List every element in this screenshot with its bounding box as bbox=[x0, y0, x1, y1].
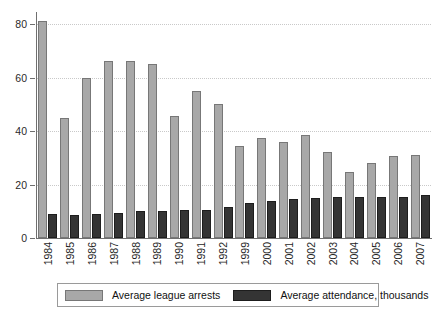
y-tick-label: 0 bbox=[21, 233, 27, 244]
y-tick-label: 20 bbox=[15, 179, 27, 190]
y-tick-label: 80 bbox=[15, 19, 27, 30]
bar-group bbox=[411, 0, 430, 238]
y-axis: 020406080 bbox=[0, 0, 36, 270]
bar-group bbox=[235, 0, 254, 238]
bar-attendance bbox=[136, 211, 145, 238]
x-tick-label: 1985 bbox=[65, 242, 76, 265]
bar-group bbox=[104, 0, 123, 238]
x-tick-label: 2000 bbox=[262, 242, 273, 265]
bar-attendance bbox=[114, 213, 123, 238]
bar-attendance bbox=[70, 215, 79, 238]
x-tick-label: 1988 bbox=[131, 242, 142, 265]
x-tick-label: 2007 bbox=[415, 242, 426, 265]
y-tick-label: 40 bbox=[15, 126, 27, 137]
bar-attendance bbox=[180, 210, 189, 238]
bar-group bbox=[257, 0, 276, 238]
bar-group bbox=[38, 0, 57, 238]
bar-arrests bbox=[60, 118, 69, 238]
y-tick-label: 60 bbox=[15, 72, 27, 83]
bar-attendance bbox=[224, 207, 233, 238]
x-tick-label: 1986 bbox=[87, 242, 98, 265]
x-axis-labels: 1984198519861987198819891990199119921999… bbox=[37, 240, 431, 270]
bar-arrests bbox=[214, 104, 223, 238]
legend-label-arrests: Average league arrests bbox=[112, 290, 220, 301]
y-tick-mark bbox=[30, 185, 35, 186]
bar-attendance bbox=[92, 214, 101, 238]
bar-group bbox=[82, 0, 101, 238]
y-tick-mark bbox=[30, 78, 35, 79]
bar-arrests bbox=[345, 172, 354, 238]
light-gray-swatch-icon bbox=[65, 290, 103, 301]
bar-attendance bbox=[202, 210, 211, 238]
x-tick-label: 1999 bbox=[240, 242, 251, 265]
legend-item-attendance: Average attendance, thousands bbox=[226, 284, 434, 306]
bar-attendance bbox=[289, 199, 298, 238]
x-tick-label: 2006 bbox=[393, 242, 404, 265]
bar-attendance bbox=[377, 197, 386, 238]
plot-area: 020406080 198419851986198719881989199019… bbox=[0, 0, 438, 270]
x-tick-label: 1992 bbox=[218, 242, 229, 265]
bar-arrests bbox=[235, 146, 244, 238]
bar-arrests bbox=[279, 142, 288, 238]
bar-group bbox=[148, 0, 167, 238]
bar-group bbox=[170, 0, 189, 238]
bar-arrests bbox=[389, 156, 398, 238]
x-tick-label: 1989 bbox=[152, 242, 163, 265]
bar-arrests bbox=[192, 91, 201, 238]
bar-attendance bbox=[48, 214, 57, 238]
y-tick-mark bbox=[30, 238, 35, 239]
dark-gray-swatch-icon bbox=[233, 290, 271, 301]
bar-attendance bbox=[267, 201, 276, 238]
x-tick-label: 2001 bbox=[284, 242, 295, 265]
bar-arrests bbox=[104, 61, 113, 238]
bar-arrests bbox=[148, 64, 157, 238]
x-tick-label: 2002 bbox=[306, 242, 317, 265]
bar-attendance bbox=[311, 198, 320, 238]
bar-group bbox=[345, 0, 364, 238]
bar-arrests bbox=[38, 21, 47, 238]
bar-group bbox=[367, 0, 386, 238]
bar-group bbox=[214, 0, 233, 238]
bar-attendance bbox=[333, 197, 342, 238]
bar-group bbox=[279, 0, 298, 238]
x-tick-label: 1987 bbox=[109, 242, 120, 265]
bar-arrests bbox=[170, 116, 179, 238]
bar-group bbox=[301, 0, 320, 238]
bar-arrests bbox=[323, 152, 332, 238]
x-axis-line bbox=[36, 238, 432, 239]
bar-group bbox=[323, 0, 342, 238]
bar-attendance bbox=[421, 195, 430, 238]
bar-arrests bbox=[82, 78, 91, 239]
bar-arrests bbox=[411, 155, 420, 238]
x-tick-label: 1990 bbox=[174, 242, 185, 265]
legend-item-arrests: Average league arrests bbox=[58, 284, 226, 306]
y-tick-mark bbox=[30, 131, 35, 132]
bar-arrests bbox=[301, 135, 310, 238]
bar-group bbox=[126, 0, 145, 238]
bar-attendance bbox=[245, 203, 254, 238]
x-tick-label: 1991 bbox=[196, 242, 207, 265]
legend-label-attendance: Average attendance, thousands bbox=[280, 290, 428, 301]
bar-group bbox=[60, 0, 79, 238]
bar-attendance bbox=[355, 197, 364, 238]
bar-group bbox=[192, 0, 211, 238]
bar-chart: 020406080 198419851986198719881989199019… bbox=[0, 0, 438, 319]
y-tick-mark bbox=[30, 24, 35, 25]
x-tick-label: 2005 bbox=[371, 242, 382, 265]
bars-container bbox=[37, 0, 431, 238]
x-tick-label: 1984 bbox=[43, 242, 54, 265]
bar-group bbox=[389, 0, 408, 238]
bar-arrests bbox=[126, 61, 135, 238]
bar-arrests bbox=[257, 138, 266, 238]
chart-legend: Average league arrests Average attendanc… bbox=[57, 283, 379, 307]
bar-attendance bbox=[399, 197, 408, 238]
bar-arrests bbox=[367, 163, 376, 238]
bar-attendance bbox=[158, 211, 167, 238]
x-tick-label: 2003 bbox=[328, 242, 339, 265]
x-tick-label: 2004 bbox=[349, 242, 360, 265]
